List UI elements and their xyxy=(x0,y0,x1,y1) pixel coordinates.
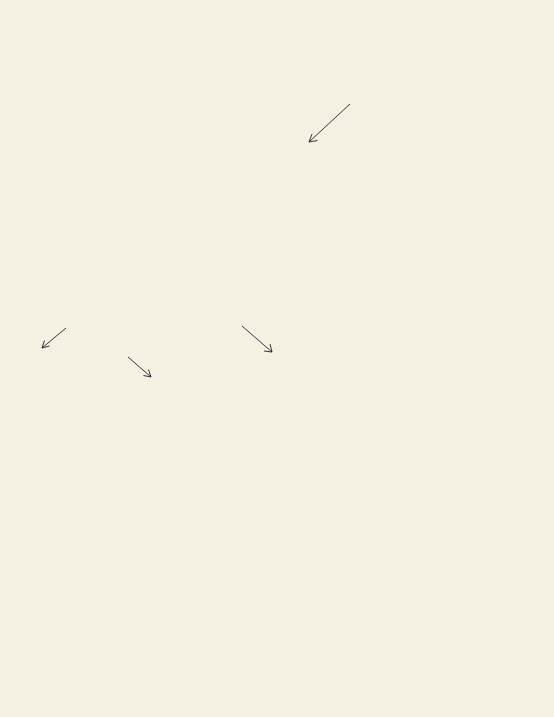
annotation-world-war-ii xyxy=(309,104,350,142)
bottom-chart xyxy=(0,470,554,717)
annotation-civil-war xyxy=(128,357,151,377)
top-chart xyxy=(0,26,554,474)
annotation-world-war-i xyxy=(242,326,272,352)
annotation-revolutionary-war xyxy=(42,328,66,348)
figure-page xyxy=(0,0,554,717)
